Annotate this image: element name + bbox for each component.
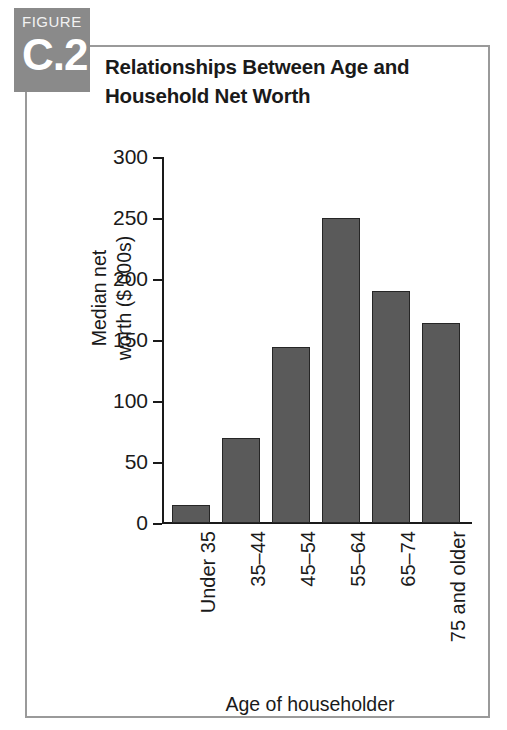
bar-65-74 [372, 291, 410, 523]
y-tick-label: 100 [113, 390, 148, 411]
bar-slot [166, 157, 216, 523]
y-tick-mark [153, 218, 162, 220]
x-tick-label: 75 and older [448, 531, 468, 642]
y-tick-100: 100 [153, 401, 162, 403]
x-tick-label: Under 35 [198, 531, 218, 613]
bar-slot [316, 157, 366, 523]
figure-badge-number: C.2 [22, 32, 90, 78]
bars-layer [164, 157, 472, 523]
y-tick-mark [153, 340, 162, 342]
y-tick-150: 150 [153, 340, 162, 342]
y-tick-label: 0 [136, 512, 148, 533]
bar-75-and-older [422, 323, 460, 523]
bar-slot [266, 157, 316, 523]
bar-slot [416, 157, 466, 523]
y-tick-mark [153, 523, 162, 525]
y-tick-mark [153, 401, 162, 403]
x-axis-title: Age of householder [175, 693, 445, 715]
y-tick-label: 200 [113, 268, 148, 289]
y-tick-50: 50 [153, 462, 162, 464]
figure-number-badge: FIGURE C.2 [14, 8, 90, 92]
y-tick-200: 200 [153, 279, 162, 281]
y-axis-title-line-1: Median net [87, 183, 112, 413]
y-tick-mark [153, 157, 162, 159]
y-tick-300: 300 [153, 157, 162, 159]
y-tick-mark [153, 279, 162, 281]
bar-slot [216, 157, 266, 523]
bar-slot [366, 157, 416, 523]
x-tick-label: 45–54 [298, 531, 318, 587]
y-tick-label: 150 [113, 329, 148, 350]
bar-chart-plot: Median net worth ($ 000s) 05010015020025… [25, 45, 490, 718]
y-tick-label: 50 [125, 451, 148, 472]
bar-55-64 [322, 218, 360, 523]
x-tick-label: 35–44 [248, 531, 268, 587]
x-tick-label: 55–64 [348, 531, 368, 587]
x-tick-label: 65–74 [398, 531, 418, 587]
bar-35-44 [222, 438, 260, 523]
bar-under-35 [172, 505, 210, 523]
y-tick-label: 300 [113, 146, 148, 167]
figure-badge-kicker: FIGURE [22, 13, 90, 30]
bar-45-54 [272, 347, 310, 523]
y-tick-mark [153, 462, 162, 464]
y-tick-250: 250 [153, 218, 162, 220]
y-tick-label: 250 [113, 207, 148, 228]
y-tick-0: 0 [153, 523, 162, 525]
